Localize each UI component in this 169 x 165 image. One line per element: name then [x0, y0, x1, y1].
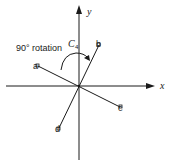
point-label-c: c [118, 103, 123, 113]
point-label-a: a [33, 61, 38, 71]
x-axis-arrow-icon [146, 83, 155, 89]
rotation-label: 90° rotation [16, 43, 62, 53]
y-axis-arrow-icon [76, 5, 82, 14]
c4-rotation-diagram: x y a b c d 90° rotation C 4 [0, 0, 169, 165]
operator-symbol: C [68, 38, 75, 49]
rotation-arrowhead-icon [84, 55, 90, 61]
y-axis: y [76, 5, 92, 160]
point-label-b: b [96, 39, 101, 49]
y-axis-label: y [86, 6, 92, 17]
operator-subscript: 4 [75, 44, 79, 50]
x-axis-label: x [159, 80, 165, 91]
point-label-d: d [55, 124, 60, 134]
rotation-arrow [61, 53, 90, 70]
c4-operator-label: C 4 [68, 38, 79, 50]
origin-point [78, 85, 80, 87]
